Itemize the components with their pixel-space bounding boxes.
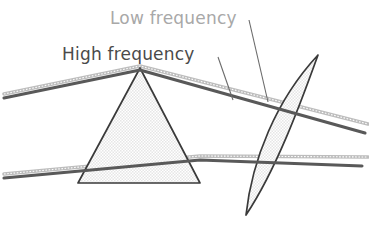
lens bbox=[246, 55, 318, 215]
high-frequency-label: High frequency bbox=[62, 44, 195, 64]
low-frequency-label: Low frequency bbox=[110, 8, 237, 28]
optics-diagram bbox=[0, 0, 369, 229]
high-frequency-ray-upper bbox=[4, 70, 365, 133]
figure-canvas: Low frequency High frequency bbox=[0, 0, 369, 229]
low-frequency-ray-upper-texture bbox=[4, 66, 368, 124]
low-frequency-ray-upper bbox=[4, 66, 368, 124]
low-frequency-leader-line bbox=[249, 20, 268, 102]
high-frequency-ray-group bbox=[4, 70, 365, 178]
